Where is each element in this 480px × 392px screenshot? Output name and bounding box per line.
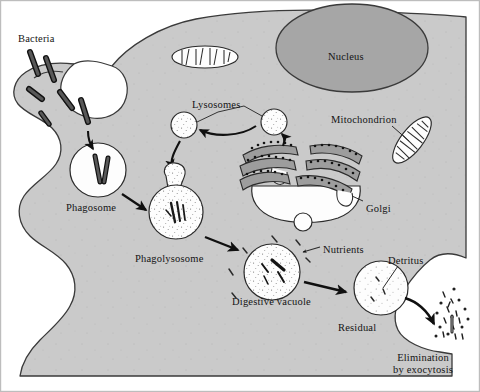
nucleus: [276, 4, 428, 92]
label-phagolysosome: Phagolysosome: [135, 253, 204, 265]
residual-body: [354, 261, 408, 315]
figure-canvas: Bacteria Nucleus Lysosomes Mitochondrion…: [0, 0, 480, 392]
nuclear-envelope: [276, 4, 428, 92]
label-detritus: Detritus: [388, 255, 423, 267]
lysosome-right: [261, 109, 287, 135]
digestive-vacuole-membrane: [244, 244, 300, 300]
residual-body-membrane: [354, 261, 408, 315]
phagolysosome-membrane: [149, 185, 203, 239]
digestive-vacuole: [244, 244, 300, 300]
label-golgi: Golgi: [366, 203, 391, 215]
elimination-line-1: Elimination: [393, 352, 453, 364]
label-mitochondrion: Mitochondrion: [331, 114, 397, 126]
label-elimination-by-exocytosis: Elimination by exocytosis: [393, 352, 453, 376]
cell-diagram: [0, 0, 480, 392]
lysosome-left: [171, 112, 197, 138]
elimination-line-2: by exocytosis: [393, 364, 453, 376]
label-nucleus: Nucleus: [328, 51, 364, 63]
golgi-vesicle: [294, 213, 312, 231]
label-nutrients: Nutrients: [323, 244, 364, 256]
mitochondrion-upper: [172, 46, 238, 68]
phagosome: [70, 143, 126, 197]
label-residual: Residual: [338, 322, 376, 334]
label-bacteria: Bacteria: [18, 33, 55, 45]
label-phagosome: Phagosome: [66, 202, 116, 214]
label-lysosomes: Lysosomes: [192, 99, 240, 111]
label-digestive-vacuole: Digestive vacuole: [232, 296, 311, 308]
